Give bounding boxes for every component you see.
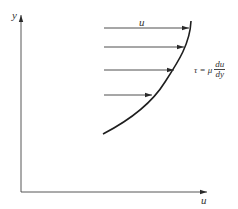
velocity-label: u — [139, 17, 145, 28]
derivative-fraction: du dy — [214, 60, 225, 80]
y-axis-label: y — [12, 10, 17, 21]
fraction-denominator: dy — [216, 70, 225, 79]
formula-lhs: τ = μ — [194, 65, 212, 75]
shear-stress-formula: τ = μ du dy — [194, 60, 225, 80]
velocity-profile-curve — [103, 21, 191, 134]
velocity-profile-diagram — [0, 0, 238, 209]
x-axis-label: u — [201, 195, 207, 206]
